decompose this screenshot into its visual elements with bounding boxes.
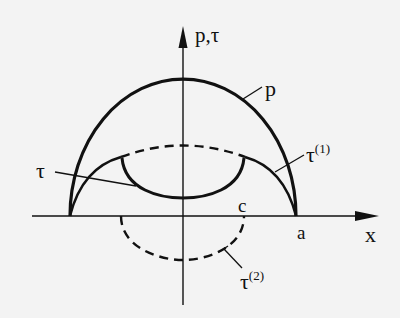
- p-label: p: [265, 76, 276, 101]
- y-axis-label: p,τ: [195, 23, 219, 47]
- tau2-label: τ(2): [240, 268, 264, 294]
- x-axis: [32, 211, 379, 221]
- y-axis: [179, 26, 188, 305]
- tau1-label: τ(1): [306, 141, 330, 167]
- x-axis-label: x: [365, 222, 376, 247]
- tau2-leader-line: [224, 249, 242, 268]
- diagram-figure: p,τ x p τ(1) τ τ(2) c a: [0, 0, 400, 318]
- x-axis-arrow-icon: [355, 211, 379, 221]
- a-marker-label: a: [297, 222, 306, 243]
- p-leader-line: [243, 87, 262, 99]
- tau-leader-line: [55, 172, 136, 186]
- c-marker-label: c: [238, 195, 246, 216]
- y-axis-arrow-icon: [179, 26, 188, 48]
- tau-label: τ: [36, 158, 45, 183]
